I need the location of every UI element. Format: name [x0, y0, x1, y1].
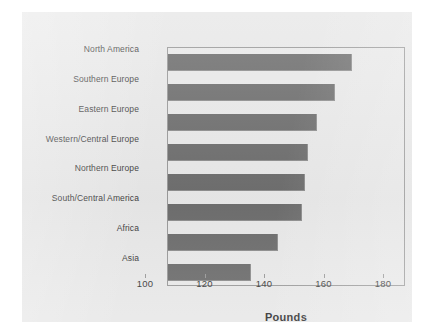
bar [168, 84, 335, 101]
category-label: North America [84, 44, 139, 54]
bar [168, 54, 352, 71]
bar-row [168, 114, 404, 131]
x-tick-label: 180 [363, 278, 403, 289]
category-label: South/Central America [52, 193, 139, 203]
bar [168, 114, 317, 131]
bar [168, 204, 302, 221]
x-axis-title: Pounds [167, 311, 405, 323]
x-tick-label: 120 [185, 278, 225, 289]
category-label: Western/Central Europe [46, 134, 139, 144]
category-label: Northern Europe [75, 163, 139, 173]
category-label: Southern Europe [73, 74, 139, 84]
bar-row [168, 54, 404, 71]
category-label: Eastern Europe [79, 104, 139, 114]
bar-row [168, 204, 404, 221]
x-tick-label: 100 [125, 278, 165, 289]
plot-area [167, 47, 405, 286]
chart-figure: North AmericaSouthern EuropeEastern Euro… [0, 0, 431, 335]
bar [168, 174, 305, 191]
category-label: Africa [117, 223, 139, 233]
category-label: Asia [122, 253, 139, 263]
bar-row [168, 234, 404, 251]
bar-row [168, 144, 404, 161]
bar [168, 144, 308, 161]
bar-row [168, 174, 404, 191]
bar-row [168, 84, 404, 101]
x-tick-label: 140 [244, 278, 284, 289]
x-tick-label: 160 [304, 278, 344, 289]
bar [168, 234, 278, 251]
figure-panel: North AmericaSouthern EuropeEastern Euro… [22, 12, 412, 322]
